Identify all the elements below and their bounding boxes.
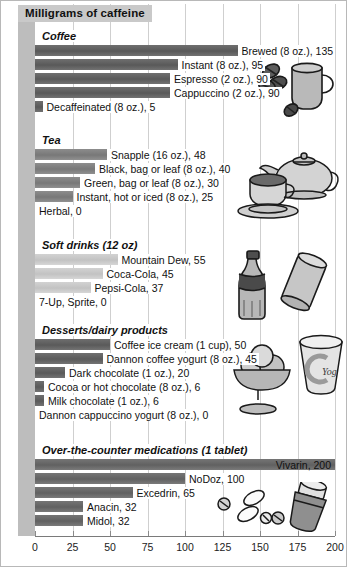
tick-200 xyxy=(335,531,336,536)
bar-dessert-0 xyxy=(35,339,110,350)
bar-label-soft-1: Coca-Cola, 45 xyxy=(105,268,176,280)
bar-label-dessert-5: Dannon cappuccino yogurt (8 oz.), 0 xyxy=(37,409,210,421)
tick-label-175: 175 xyxy=(289,541,307,553)
tick-label-75: 75 xyxy=(142,541,154,553)
bar-soft-1 xyxy=(35,268,103,279)
bar-coffee-4 xyxy=(35,101,43,112)
bar-dessert-4 xyxy=(35,395,44,406)
section-heading-soft: Soft drinks (12 oz) xyxy=(40,239,140,251)
bar-soft-0 xyxy=(35,254,118,265)
bar-label-tea-3: Instant, hot or iced (8 oz.), 25 xyxy=(75,191,216,203)
tick-label-0: 0 xyxy=(32,541,38,553)
bar-tea-1 xyxy=(35,163,95,174)
tick-label-50: 50 xyxy=(104,541,116,553)
soda-bottle-and-can-icon xyxy=(228,248,336,322)
tick-label-150: 150 xyxy=(251,541,269,553)
tick-100 xyxy=(185,531,186,536)
bar-coffee-2 xyxy=(35,73,170,84)
tick-150 xyxy=(260,531,261,536)
bar-label-meds-2: Excedrin, 65 xyxy=(135,487,197,499)
bar-label-meds-1: NoDoz, 100 xyxy=(187,473,246,485)
bar-label-coffee-4: Decaffeinated (8 oz.), 5 xyxy=(45,101,158,113)
bar-label-meds-0: Vivarin, 200 xyxy=(274,459,333,471)
bar-label-dessert-0: Coffee ice cream (1 cup), 50 xyxy=(112,339,248,351)
bar-dessert-2 xyxy=(35,367,65,378)
bar-meds-4 xyxy=(35,515,83,526)
bar-tea-0 xyxy=(35,149,107,160)
tick-0 xyxy=(35,531,36,536)
tick-label-100: 100 xyxy=(176,541,194,553)
bar-label-dessert-3: Cocoa or hot chocolate (8 oz.), 6 xyxy=(46,381,202,393)
tick-label-25: 25 xyxy=(67,541,79,553)
bar-label-soft-3: 7-Up, Sprite, 0 xyxy=(37,296,109,308)
bar-tea-3 xyxy=(35,191,73,202)
bar-label-tea-1: Black, bag or leaf (8 oz.), 40 xyxy=(97,163,232,175)
bar-label-meds-4: Midol, 32 xyxy=(85,515,132,527)
section-heading-dessert: Desserts/dairy products xyxy=(40,324,171,336)
section-heading-meds: Over-the-counter medications (1 tablet) xyxy=(40,444,250,456)
bar-label-dessert-4: Milk chocolate (1 oz.), 6 xyxy=(46,395,161,407)
bar-label-dessert-2: Dark chocolate (1 oz.), 20 xyxy=(67,367,191,379)
bar-coffee-1 xyxy=(35,59,178,70)
bar-meds-1 xyxy=(35,473,185,484)
tick-25 xyxy=(73,531,74,536)
chart-title: Milligrams of caffeine xyxy=(18,5,152,22)
bar-label-tea-4: Herbal, 0 xyxy=(37,205,84,217)
tick-125 xyxy=(223,531,224,536)
bar-label-coffee-0: Brewed (8 oz.), 135 xyxy=(240,45,336,57)
bar-coffee-0 xyxy=(35,45,238,56)
bar-tea-2 xyxy=(35,177,80,188)
bar-label-meds-3: Anacin, 32 xyxy=(85,501,139,513)
tick-175 xyxy=(298,531,299,536)
bar-label-soft-2: Pepsi-Cola, 37 xyxy=(93,282,166,294)
bar-label-soft-0: Mountain Dew, 55 xyxy=(120,254,208,266)
tick-75 xyxy=(148,531,149,536)
x-axis-line xyxy=(35,536,335,537)
caffeine-bar-chart: Milligrams of caffeine xyxy=(0,0,348,568)
teapot-and-teacup-icon xyxy=(232,148,344,224)
bar-coffee-3 xyxy=(35,87,170,98)
section-heading-tea: Tea xyxy=(40,134,64,146)
bar-meds-3 xyxy=(35,501,83,512)
tick-50 xyxy=(110,531,111,536)
bar-label-coffee-1: Instant (8 oz.), 95 xyxy=(180,59,266,71)
bar-label-tea-2: Green, bag or leaf (8 oz.), 30 xyxy=(82,177,221,189)
pill-bottle-and-tablets-icon xyxy=(208,482,344,538)
tick-label-200: 200 xyxy=(326,541,344,553)
bar-dessert-1 xyxy=(35,353,103,364)
left-margin-strip xyxy=(18,14,35,536)
bar-meds-2 xyxy=(35,487,133,498)
section-heading-coffee: Coffee xyxy=(40,30,79,42)
tick-label-125: 125 xyxy=(214,541,232,553)
coffee-mug-and-beans-icon xyxy=(258,50,346,118)
bar-soft-2 xyxy=(35,282,91,293)
bar-label-dessert-1: Dannon coffee yogurt (8 oz.), 45 xyxy=(105,353,259,365)
svg-text:Yog: Yog xyxy=(322,366,337,377)
bar-label-tea-0: Snapple (16 oz.), 48 xyxy=(109,149,208,161)
bar-label-coffee-3: Cappuccino (2 oz.), 90 xyxy=(172,87,282,99)
bar-label-coffee-2: Espresso (2 oz.), 90 xyxy=(172,73,270,85)
bar-dessert-3 xyxy=(35,381,44,392)
